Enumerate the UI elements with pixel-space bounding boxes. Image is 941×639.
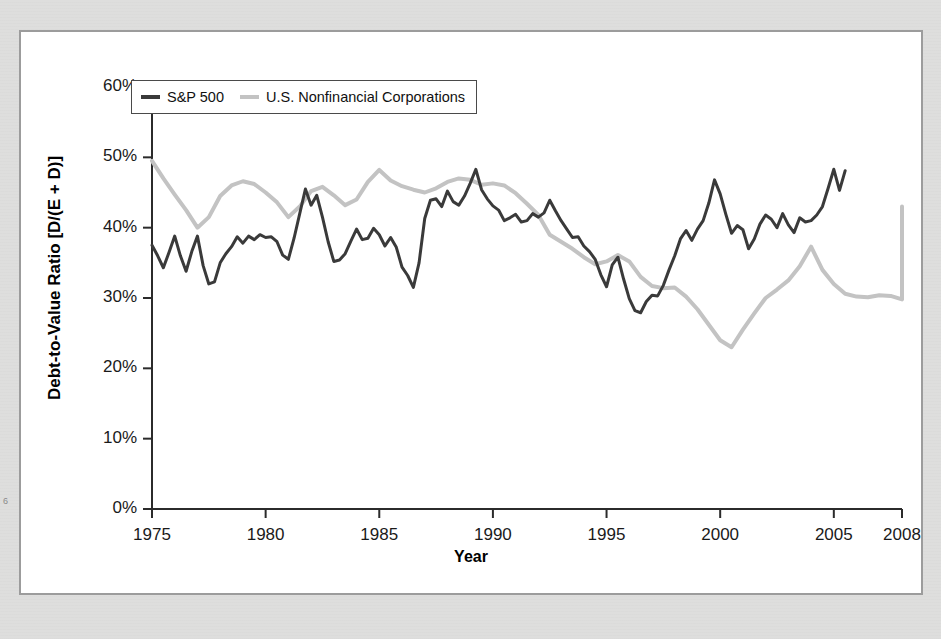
x-tick-label: 2008 (862, 525, 941, 545)
x-axis-ticks (152, 509, 902, 518)
legend-label-nonfinancial: U.S. Nonfinancial Corporations (266, 89, 465, 105)
y-axis-title: Debt-to-Value Ratio [D/(E + D)] (45, 128, 65, 428)
y-tick-label: 10% (57, 428, 137, 448)
y-tick-label: 60% (57, 76, 137, 96)
chart-plot-area (21, 32, 921, 593)
chart-legend: S&P 500 U.S. Nonfinancial Corporations (131, 80, 477, 114)
y-tick-label: 0% (57, 498, 137, 518)
x-tick-label: 2000 (680, 525, 760, 545)
legend-entry-nonfinancial: U.S. Nonfinancial Corporations (240, 89, 465, 105)
x-axis-title: Year (21, 548, 921, 566)
y-tick-label: 40% (57, 217, 137, 237)
y-axis-ticks (143, 87, 152, 509)
axis-lines (152, 87, 902, 509)
margin-page-number: 6 (3, 496, 8, 506)
y-tick-label: 30% (57, 287, 137, 307)
page-background: 6 0%10%20%30%40%50%60% 19751980198519901… (0, 0, 941, 639)
x-tick-label: 1990 (453, 525, 533, 545)
legend-swatch-nonfinancial (240, 95, 259, 99)
series-line-sp500 (152, 169, 845, 312)
legend-swatch-sp500 (141, 95, 160, 99)
y-tick-label: 20% (57, 357, 137, 377)
legend-label-sp500: S&P 500 (167, 89, 224, 105)
series-line-nonfinancial (152, 161, 902, 347)
y-tick-label: 50% (57, 146, 137, 166)
x-tick-label: 1975 (112, 525, 192, 545)
x-tick-label: 1995 (567, 525, 647, 545)
legend-entry-sp500: S&P 500 (141, 89, 224, 105)
x-tick-label: 1980 (226, 525, 306, 545)
figure-panel: 0%10%20%30%40%50%60% 1975198019851990199… (19, 30, 923, 595)
data-series-group (152, 161, 902, 347)
x-tick-label: 1985 (339, 525, 419, 545)
